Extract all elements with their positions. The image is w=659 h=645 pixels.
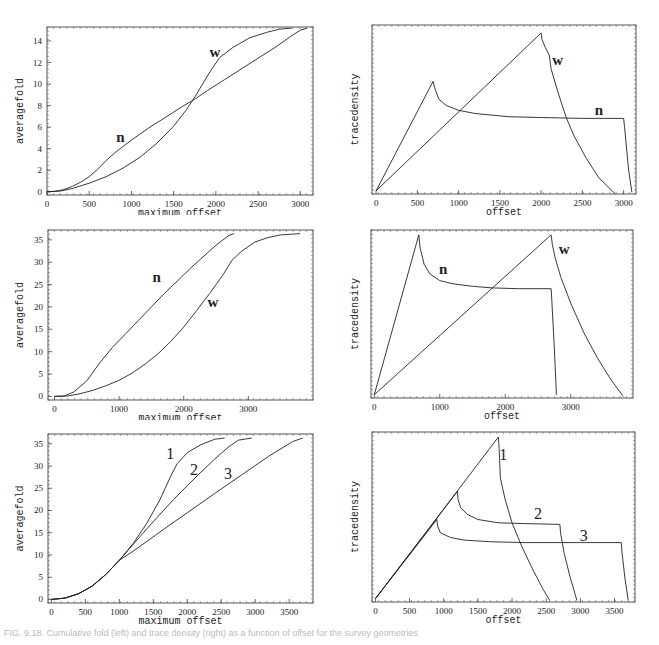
series-line-1 xyxy=(51,438,224,599)
y-axis-label: tracedensity xyxy=(350,73,361,145)
y-tick-label: 0 xyxy=(39,594,44,604)
x-tick-label: 3000 xyxy=(615,198,634,208)
y-tick-label: 0 xyxy=(38,187,43,197)
y-tick-label: 15 xyxy=(34,324,44,334)
x-tick-label: 500 xyxy=(403,606,417,616)
x-tick-label: 3000 xyxy=(571,606,590,616)
x-tick-label: 2500 xyxy=(537,606,556,616)
x-tick-label: 3000 xyxy=(562,402,581,412)
chart-bottom-right: 0500100015002000250030003500offsettraced… xyxy=(330,420,659,625)
x-axis-label: offset xyxy=(485,615,521,625)
series-line-n xyxy=(47,28,307,192)
y-tick-label: 25 xyxy=(34,280,44,290)
series-label-3: 3 xyxy=(580,527,588,544)
series-label-3: 3 xyxy=(224,465,232,482)
y-tick-label: 20 xyxy=(34,505,44,515)
series-line-1 xyxy=(375,437,549,600)
chart-svg: 05001000150020002500300002468101214maxim… xyxy=(0,0,330,215)
series-line-w xyxy=(47,28,292,192)
chart-top-right: 050010001500200025003000offsettracedensi… xyxy=(330,0,659,215)
frame-ticks xyxy=(48,230,313,400)
x-tick-label: 500 xyxy=(82,199,96,209)
plot-frame xyxy=(48,230,313,400)
series-line-2 xyxy=(51,438,251,599)
y-tick-label: 5 xyxy=(39,369,44,379)
y-tick-label: 8 xyxy=(38,101,43,111)
series-label-w: w xyxy=(552,52,563,68)
series-line-3 xyxy=(51,438,302,599)
y-axis-label: averagefold xyxy=(15,282,26,348)
y-tick-label: 10 xyxy=(34,550,44,560)
y-axis-label: averagefold xyxy=(15,78,26,144)
series-label-n: n xyxy=(439,261,448,277)
frame-ticks xyxy=(371,230,633,398)
x-tick-label: 0 xyxy=(374,198,379,208)
series-line-w xyxy=(376,33,615,194)
x-axis-label: offset xyxy=(486,207,522,215)
y-tick-label: 35 xyxy=(34,439,44,449)
chart-svg: 0100020003000offsettracedensitynw xyxy=(330,215,659,420)
y-tick-label: 2 xyxy=(38,165,43,175)
x-tick-label: 1000 xyxy=(110,404,129,414)
x-tick-label: 3500 xyxy=(606,606,625,616)
series-line-n xyxy=(376,81,632,192)
series-label-1: 1 xyxy=(499,446,507,463)
y-tick-label: 20 xyxy=(34,302,44,312)
x-tick-label: 1000 xyxy=(110,607,129,617)
y-tick-label: 10 xyxy=(33,79,43,89)
series-label-2: 2 xyxy=(190,461,198,478)
y-tick-label: 0 xyxy=(39,391,44,401)
y-tick-label: 35 xyxy=(34,235,44,245)
chart-top-left: 05001000150020002500300002468101214maxim… xyxy=(0,0,330,215)
series-line-2 xyxy=(375,491,577,600)
y-tick-label: 4 xyxy=(38,144,43,154)
x-tick-label: 500 xyxy=(79,607,93,617)
y-axis-label: tracedensity xyxy=(350,278,361,350)
x-tick-label: 0 xyxy=(52,404,57,414)
series-label-w: w xyxy=(559,241,570,257)
chart-svg: 0500100015002000250030003500offsettraced… xyxy=(330,420,659,625)
y-tick-label: 12 xyxy=(33,58,42,68)
x-tick-label: 1000 xyxy=(450,198,469,208)
series-line-w xyxy=(55,234,301,397)
frame-ticks xyxy=(48,434,313,603)
chart-middle-left: 010002000300005101520253035maximum offse… xyxy=(0,215,330,420)
x-tick-label: 500 xyxy=(411,198,425,208)
x-tick-label: 1000 xyxy=(435,606,454,616)
x-tick-label: 1000 xyxy=(431,402,450,412)
x-tick-label: 0 xyxy=(45,199,50,209)
series-label-1: 1 xyxy=(166,445,174,462)
chart-svg: 010002000300005101520253035maximum offse… xyxy=(0,215,330,420)
y-axis-label: tracedensity xyxy=(350,481,361,553)
x-tick-label: 3000 xyxy=(291,199,310,209)
y-tick-label: 14 xyxy=(33,36,43,46)
series-line-3 xyxy=(375,520,628,601)
chart-svg: 0500100015002000250030003500051015202530… xyxy=(0,420,330,625)
x-tick-label: 3500 xyxy=(280,607,299,617)
plot-frame xyxy=(371,230,633,398)
y-tick-label: 6 xyxy=(38,122,43,132)
plot-frame xyxy=(48,434,313,603)
series-label-n: n xyxy=(116,129,125,145)
x-tick-label: 2500 xyxy=(573,198,592,208)
x-tick-label: 3000 xyxy=(246,607,265,617)
x-tick-label: 2500 xyxy=(249,199,268,209)
y-tick-label: 25 xyxy=(34,483,44,493)
series-label-2: 2 xyxy=(534,505,542,522)
x-tick-label: 3000 xyxy=(239,404,258,414)
x-axis-label: maximum offset xyxy=(138,616,222,625)
x-tick-label: 0 xyxy=(373,606,378,616)
y-tick-label: 5 xyxy=(39,572,44,582)
series-label-w: w xyxy=(207,294,218,310)
x-tick-label: 0 xyxy=(49,607,54,617)
series-line-n xyxy=(374,235,556,395)
series-label-w: w xyxy=(210,44,221,60)
chart-bottom-left: 0500100015002000250030003500051015202530… xyxy=(0,420,330,625)
series-label-n: n xyxy=(595,102,604,118)
y-axis-label: averagefold xyxy=(15,485,26,551)
y-tick-label: 15 xyxy=(34,528,44,538)
series-line-n xyxy=(55,234,235,397)
chart-svg: 050010001500200025003000offsettracedensi… xyxy=(330,0,659,215)
x-tick-label: 2000 xyxy=(532,198,551,208)
figure-caption: FIG. 9.18. Cumulative fold (left) and tr… xyxy=(4,628,656,638)
